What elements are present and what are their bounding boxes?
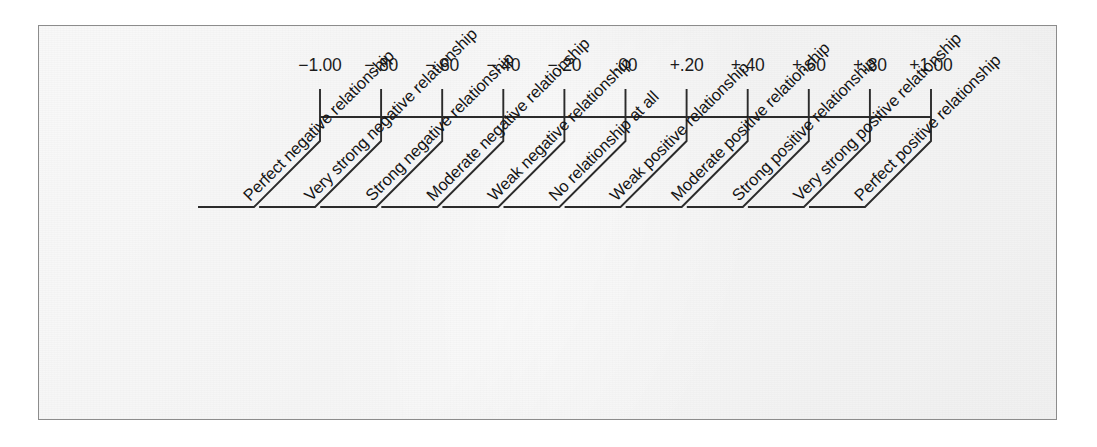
correlation-scale-diagram: −1.00−.80−.60−.40−.20.00+.20+.40+.60+.80…	[0, 0, 1097, 447]
annotation-text: No relationship at all	[545, 87, 662, 204]
figure-root: −1.00−.80−.60−.40−.20.00+.20+.40+.60+.80…	[0, 0, 1097, 447]
tick-label: +.20	[670, 55, 704, 75]
annotation-label: No relationship at all	[545, 87, 662, 204]
tick-label: −1.00	[298, 55, 342, 75]
leader-labels-group: Perfect negative relationshipVery strong…	[239, 24, 1003, 204]
